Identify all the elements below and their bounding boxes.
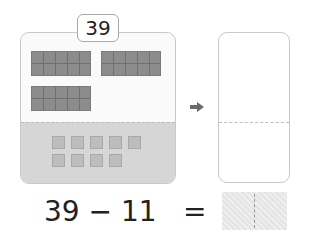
ones-block: [109, 154, 122, 167]
ones-block: [90, 154, 103, 167]
right-arrow-icon: [190, 102, 204, 112]
ones-block: [52, 154, 65, 167]
equals-sign: =: [183, 196, 206, 228]
answer-divider: [254, 194, 255, 228]
ones-block: [109, 136, 122, 149]
ones-block: [128, 136, 141, 149]
ones-block: [71, 136, 84, 149]
tens-block: [101, 51, 161, 76]
result-card[interactable]: [218, 32, 290, 183]
ones-block: [90, 136, 103, 149]
start-number-label: 39: [77, 14, 119, 42]
ones-block: [52, 136, 65, 149]
tens-block: [31, 51, 91, 76]
ones-block: [71, 154, 84, 167]
subtraction-expression: 39 − 11: [44, 196, 157, 228]
tens-block: [31, 86, 91, 111]
answer-box[interactable]: [222, 192, 287, 230]
tens-ones-divider: [219, 122, 289, 123]
ones-area: [21, 122, 175, 183]
